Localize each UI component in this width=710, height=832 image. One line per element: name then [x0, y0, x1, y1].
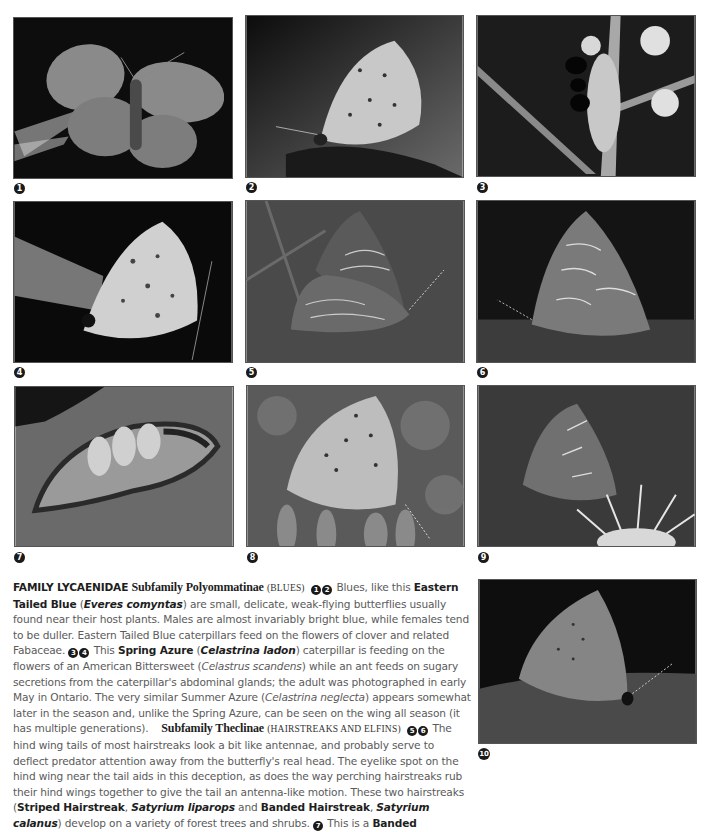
figure-ref-3: 3 — [68, 648, 78, 658]
subfamily-heading-polyommatinae: Subfamily Polyommatinae — [131, 580, 263, 594]
figure-number-5: 5 — [246, 367, 257, 378]
figure-ref-7: 7 — [313, 821, 323, 831]
caption-segment: Blues, like this — [333, 581, 414, 593]
figure-number-10: 10 — [478, 748, 490, 760]
caption-segment: The hind wing tails of most hairstreaks … — [13, 722, 464, 813]
hairstreak-image — [477, 201, 695, 362]
caterpillar-with-ant-image — [477, 16, 695, 176]
subfamily-common-name: (HAIRSTREAKS AND ELFINS) — [267, 724, 401, 734]
photo-7-banded-hairstreak-caterpillar — [14, 386, 234, 547]
caption-segment: ( — [193, 644, 200, 656]
butterfly-side-view-image — [246, 16, 463, 177]
photo-2-eastern-tailed-blue-side — [245, 15, 464, 178]
species-latin-name: Celastrina neglecta — [265, 691, 365, 703]
subfamily-common-name: (BLUES) — [267, 583, 305, 593]
species-common-name: Banded Hairstreak — [261, 801, 370, 813]
figure-ref-6: 6 — [418, 726, 428, 736]
species-common-name: Banded — [372, 817, 416, 829]
species-latin-name: Celastrina ladon — [201, 644, 296, 656]
hairstreak-image — [246, 201, 464, 362]
butterfly-side-view-image — [14, 202, 232, 362]
hairstreak-on-leaf-image — [479, 580, 696, 743]
caption-segment: This is a — [324, 817, 372, 829]
subfamily-heading-theclinae: Subfamily Theclinae — [161, 721, 264, 735]
figure-number-9: 9 — [478, 552, 489, 563]
butterfly-on-flowers-image — [247, 386, 464, 546]
figure-number-8: 8 — [247, 552, 258, 563]
figure-number-6: 6 — [477, 367, 488, 378]
caption-segment: ) develop on a variety of forest trees a… — [58, 817, 313, 829]
figure-number-2: 2 — [246, 182, 257, 193]
figure-number-4: 4 — [14, 367, 25, 378]
hairstreak-on-flower-image — [478, 386, 695, 546]
family-heading: FAMILY LYCAENIDAE — [13, 581, 128, 593]
figure-ref-4: 4 — [79, 648, 89, 658]
figure-number-7: 7 — [14, 552, 25, 563]
photo-4-spring-azure-adult — [13, 201, 233, 363]
species-latin-name: Satyrium liparops — [131, 801, 235, 813]
photo-3-spring-azure-caterpillar — [476, 15, 696, 177]
species-common-name: Spring Azure — [118, 644, 193, 656]
figure-number-3: 3 — [477, 182, 488, 193]
caterpillar-image — [15, 387, 233, 546]
figure-ref-5: 5 — [407, 726, 417, 736]
photo-9-hairstreak-on-flower — [477, 385, 696, 547]
photo-1-eastern-tailed-blue — [13, 17, 233, 179]
caption-text: FAMILY LYCAENIDAE Subfamily Polyommatina… — [13, 580, 471, 832]
species-common-name: Striped Hairstreak — [17, 801, 125, 813]
butterfly-open-wings-image — [14, 18, 232, 178]
photo-10-hairstreak-on-leaf — [478, 579, 697, 744]
figure-ref-2: 2 — [322, 585, 332, 595]
photo-8-blue-on-flowers — [246, 385, 465, 547]
photo-6-banded-hairstreak — [476, 200, 696, 363]
photo-5-striped-hairstreak — [245, 200, 465, 363]
figure-ref-1: 1 — [311, 585, 321, 595]
figure-number-1: 1 — [14, 183, 25, 194]
plant-latin-name: Celastrus scandens — [201, 660, 301, 672]
caption-segment: and — [235, 801, 261, 813]
caption-segment: ( — [77, 598, 84, 610]
species-latin-name: Everes comyntas — [84, 598, 183, 610]
caption-segment: This — [90, 644, 117, 656]
